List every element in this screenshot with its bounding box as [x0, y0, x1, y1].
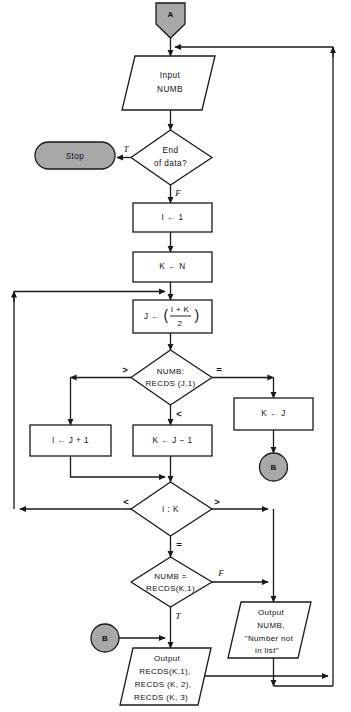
compare-j-shape [131, 350, 212, 405]
set-k-n-label: K ← N [159, 262, 185, 271]
node-set-i-1[interactable]: I ← 1 [133, 203, 212, 232]
label-ik-less: < [123, 496, 129, 507]
compare-i-k-label: I : K [162, 505, 179, 514]
input-numb-line2: NUMB [157, 85, 183, 94]
node-set-i-j-plus-1[interactable]: I ← J + 1 [30, 425, 111, 456]
node-compare-numb-recds-j[interactable]: NUMB: RECDS (J,1) [131, 350, 212, 405]
output-not-found-line1: Output [258, 608, 285, 617]
set-i-1-label: I ← 1 [162, 213, 184, 222]
label-comparej-less: < [176, 408, 182, 419]
node-stop[interactable]: Stop [35, 142, 115, 169]
output-not-found-line3: "Number not [245, 634, 294, 643]
label-ik-greater: > [214, 496, 220, 507]
output-record-line2: RECDS(K,1), [139, 667, 190, 676]
connector-b-bottom-label: B [102, 634, 108, 643]
connector-b-bottom[interactable]: B [91, 624, 119, 652]
label-comparej-greater: > [122, 364, 128, 375]
output-not-found-line4: in list" [255, 646, 279, 655]
connector-a-label: A [168, 10, 174, 19]
connector-a[interactable]: A [156, 3, 185, 38]
node-output-not-found[interactable]: Output NUMB, "Number not in list" [228, 602, 311, 658]
compute-j-paren-open: ( [163, 307, 168, 323]
connector-a-shape [156, 3, 185, 38]
set-i-j-plus-1-label: I ← J + 1 [52, 436, 89, 445]
stop-label: Stop [66, 152, 85, 161]
node-set-k-n[interactable]: K ← N [133, 252, 212, 282]
node-compare-i-k[interactable]: I : K [131, 482, 212, 536]
compute-j-numerator: I + K [171, 305, 190, 314]
compare-k-line2: RECDS(K,1) [146, 584, 195, 593]
compute-j-lhs: J ← [144, 312, 160, 321]
node-compare-numb-recds-k[interactable]: NUMB = RECDS(K,1) [131, 557, 212, 607]
input-numb-shape [122, 56, 215, 110]
connector-b-top-label: B [271, 463, 277, 472]
node-output-record[interactable]: Output RECDS(K,1), RECDS (K, 2), RECDS (… [120, 648, 211, 705]
label-ik-equal: = [176, 539, 182, 550]
output-record-line4: RECDS (K, 3) [134, 693, 188, 702]
compute-j-denominator: 2 [178, 319, 183, 328]
compare-k-shape [131, 557, 212, 607]
flowchart-canvas: A Input NUMB End of data? Stop I ← 1 K ←… [0, 0, 351, 712]
node-set-k-j-minus-1[interactable]: K ← J − 1 [133, 425, 212, 456]
compare-j-line1: NUMB: [157, 367, 185, 376]
edge-setij1-to-junction [71, 456, 166, 477]
label-numbeq-false: F [217, 568, 224, 578]
label-comparej-equal: = [216, 364, 222, 375]
output-record-line3: RECDS (K, 2), [135, 680, 192, 689]
output-not-found-line2: NUMB, [257, 621, 285, 630]
node-input-numb[interactable]: Input NUMB [122, 56, 215, 110]
node-end-of-data[interactable]: End of data? [131, 130, 212, 185]
compute-j-paren-close: ) [194, 307, 199, 323]
output-record-line1: Output [154, 654, 181, 663]
node-set-k-j[interactable]: K ← J [234, 398, 313, 430]
end-of-data-shape [131, 130, 212, 185]
set-k-j-label: K ← J [261, 409, 286, 418]
label-enddata-false: F [174, 188, 181, 198]
label-numbeq-true: T [175, 611, 181, 621]
end-of-data-line2: of data? [154, 159, 187, 168]
compare-j-line2: RECDS (J,1) [145, 379, 195, 388]
node-compute-j[interactable]: J ← ( I + K 2 ) [133, 300, 212, 333]
end-of-data-line1: End [163, 146, 179, 155]
connector-b-top[interactable]: B [260, 453, 288, 481]
set-k-j-minus-1-label: K ← J − 1 [152, 436, 192, 445]
input-numb-line1: Input [160, 71, 181, 80]
label-enddata-true: T [123, 144, 129, 154]
compare-k-line1: NUMB = [154, 572, 187, 581]
